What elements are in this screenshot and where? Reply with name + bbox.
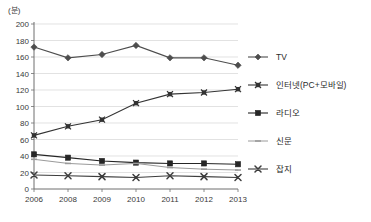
data-point-marker — [65, 155, 70, 160]
x-tick-label: 2010 — [127, 195, 145, 204]
y-tick-label: 160 — [16, 53, 30, 62]
data-point-marker — [167, 55, 173, 61]
data-point-marker — [65, 55, 71, 61]
legend-label-1: TV — [276, 52, 287, 62]
x-tick-label: 2006 — [25, 195, 43, 204]
data-point-marker — [235, 162, 240, 167]
y-tick-label: 180 — [16, 37, 30, 46]
y-tick-label: 0 — [25, 185, 30, 194]
legend-label-3: 라디오 — [276, 108, 300, 118]
chart-legend: TV인터넷(PC+모바일)라디오신문잡지 — [248, 52, 347, 174]
y-tick-label: 40 — [20, 152, 29, 161]
data-point-marker — [167, 161, 172, 166]
x-axis-labels: 2006200820092010201120122013 — [25, 189, 247, 204]
data-point-marker — [255, 110, 260, 115]
x-tick-label: 2008 — [59, 195, 77, 204]
y-tick-label: 20 — [20, 169, 29, 178]
legend-label-5: 잡지 — [276, 164, 292, 174]
legend-label-4: 신문 — [276, 136, 292, 146]
y-tick-label: 80 — [20, 119, 29, 128]
x-tick-label: 2012 — [195, 195, 213, 204]
legend-label-2: 인터넷(PC+모바일) — [276, 80, 347, 90]
data-point-marker — [201, 55, 207, 61]
series-3 — [31, 152, 240, 167]
x-tick-label: 2011 — [161, 195, 179, 204]
series-1 — [31, 42, 241, 68]
data-point-marker — [133, 42, 139, 48]
y-tick-label: 140 — [16, 70, 30, 79]
y-tick-label: 120 — [16, 86, 30, 95]
data-point-marker — [255, 54, 261, 60]
y-tick-label: 200 — [16, 20, 30, 29]
x-tick-label: 2009 — [93, 195, 111, 204]
y-tick-label: 60 — [20, 136, 29, 145]
y-gridlines: 020406080100120140160180200 — [16, 20, 238, 194]
series-5 — [31, 172, 241, 180]
data-point-marker — [201, 161, 206, 166]
series-2 — [31, 86, 241, 138]
data-point-marker — [99, 158, 104, 163]
line-chart: 0204060801001201401601802002006200820092… — [0, 0, 371, 222]
data-point-marker — [235, 62, 241, 68]
data-point-marker — [31, 152, 36, 157]
x-tick-label: 2013 — [229, 195, 247, 204]
data-point-marker — [133, 160, 138, 165]
y-tick-label: 100 — [16, 103, 30, 112]
data-point-marker — [31, 44, 37, 50]
series-line — [34, 89, 238, 135]
chart-container: (분) 020406080100120140160180200200620082… — [0, 0, 371, 222]
